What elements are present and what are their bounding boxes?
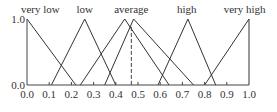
x-tick-label: 0.7 [176,88,190,100]
series-layer [27,19,249,85]
y-ticks: 0.01.0 [11,13,25,91]
x-tick-label: 0.3 [87,88,101,100]
y-tick-label: 1.0 [11,13,25,25]
x-tick-label: 0.8 [198,88,212,100]
series-labels: very lowlowaveragehighvery high [21,3,266,15]
series-label-high: high [177,3,197,15]
series-low [51,19,115,85]
x-tick-label: 1.0 [242,88,256,100]
y-tick-label: 0.0 [11,79,25,91]
x-tick-label: 0.6 [153,88,167,100]
x-tick-label: 0.4 [109,88,123,100]
x-tick-label: 0.9 [220,88,234,100]
series-average [80,19,169,85]
series-label-low: low [76,3,93,15]
series-label-very-low: very low [21,3,60,15]
membership-function-chart: very lowlowaveragehighvery high 0.00.10.… [0,0,277,112]
x-tick-label: 0.2 [65,88,79,100]
x-tick-label: 0.5 [131,88,145,100]
series-very-high [205,19,249,85]
series-label-very-high: very high [224,3,266,15]
series-high [158,19,216,85]
x-tick-label: 0.1 [42,88,56,100]
series-label-average: average [114,3,148,15]
